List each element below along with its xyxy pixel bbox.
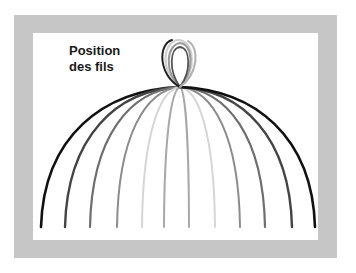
title-line-1: Position bbox=[69, 43, 120, 59]
wire-left-4 bbox=[142, 87, 180, 227]
wire-fan bbox=[41, 87, 315, 227]
wire-left-1 bbox=[65, 87, 180, 227]
wire-right-10 bbox=[180, 87, 292, 227]
wire-diagram bbox=[0, 0, 356, 273]
wire-loop bbox=[162, 40, 195, 87]
diagram-title: Position des fils bbox=[69, 43, 120, 75]
wire-right-6 bbox=[180, 87, 189, 227]
wire-left-5 bbox=[164, 87, 180, 227]
title-line-2: des fils bbox=[69, 59, 120, 75]
